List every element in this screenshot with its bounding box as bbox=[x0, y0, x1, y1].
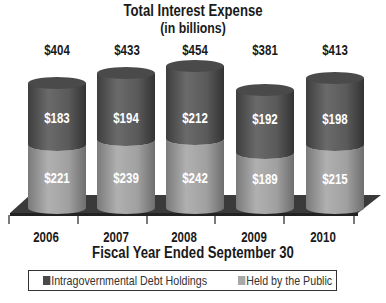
bar-2007 bbox=[97, 67, 155, 214]
legend-swatch-light bbox=[238, 276, 245, 285]
value-intragov-2009: $192 bbox=[252, 111, 278, 127]
bar-2010 bbox=[306, 72, 364, 214]
x-tick-2009: 2009 bbox=[229, 229, 278, 245]
legend-label: Held by the Public bbox=[246, 273, 332, 288]
legend-swatch-dark bbox=[43, 276, 50, 285]
legend-label: Intragovernmental Debt Holdings bbox=[51, 273, 207, 288]
bar-2006 bbox=[28, 77, 86, 214]
x-axis-title: Fiscal Year Ended September 30 bbox=[35, 244, 352, 262]
value-public-2009: $189 bbox=[252, 171, 278, 187]
bar-2009 bbox=[236, 84, 294, 214]
value-intragov-2010: $198 bbox=[322, 111, 348, 127]
value-public-2008: $242 bbox=[182, 170, 208, 186]
x-tick-2007: 2007 bbox=[91, 229, 140, 245]
value-intragov-2008: $212 bbox=[182, 110, 208, 126]
x-tick-2008: 2008 bbox=[159, 229, 208, 245]
value-public-2007: $239 bbox=[113, 170, 139, 186]
value-intragov-2007: $194 bbox=[113, 110, 139, 126]
value-intragov-2006: $183 bbox=[44, 110, 70, 126]
bar-2008 bbox=[166, 60, 224, 214]
value-public-2010: $215 bbox=[322, 171, 348, 187]
chart-legend: Intragovernmental Debt Holdings Held by … bbox=[28, 270, 337, 291]
x-tick-2010: 2010 bbox=[298, 229, 347, 245]
legend-item-intragovernmental: Intragovernmental Debt Holdings bbox=[43, 273, 207, 288]
x-tick-2006: 2006 bbox=[21, 229, 70, 245]
value-public-2006: $221 bbox=[44, 170, 70, 186]
legend-item-public: Held by the Public bbox=[238, 273, 332, 288]
